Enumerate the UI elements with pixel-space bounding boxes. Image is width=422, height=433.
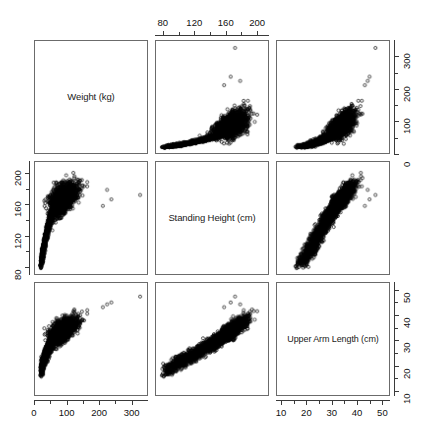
axis-tick — [163, 31, 164, 36]
panel-height-vs-weight — [155, 40, 269, 154]
axis-tick — [25, 173, 30, 174]
axis-tick — [332, 400, 333, 405]
axis-tick — [179, 32, 180, 36]
axis-tick — [394, 340, 399, 341]
scatter-points-height-vs-arm — [156, 283, 268, 395]
axis-tick — [394, 138, 398, 139]
axis-tick-label-arm-right: 10 — [401, 378, 412, 404]
axis-tick-label-weight-bottom: 300 — [119, 407, 145, 418]
axis-tick — [394, 302, 398, 303]
scatter-points-arm-vs-height — [277, 162, 389, 274]
panel-weight-diagonal: Weight (kg) — [34, 40, 148, 154]
axis-tick — [210, 32, 211, 36]
axis-tick-label-arm-right: 30 — [401, 327, 412, 353]
axis-tick-label-weight-right: 300 — [401, 43, 412, 69]
axis-tick — [50, 400, 51, 404]
panel-height-vs-arm — [155, 282, 269, 396]
axis-tick — [34, 400, 35, 405]
axis-tick-label-height-top: 160 — [215, 17, 237, 28]
axis-tick — [357, 400, 358, 405]
axis-tick-label-arm-bottom: 40 — [346, 407, 368, 418]
axis-tick — [294, 400, 295, 404]
diagonal-label-weight: Weight (kg) — [35, 41, 147, 153]
axis-tick — [394, 290, 399, 291]
axis-tick-label-height-left: 200 — [12, 160, 23, 186]
scatter-points-height-vs-weight — [156, 41, 268, 153]
axis-tick — [25, 236, 30, 237]
axis-tick — [394, 366, 399, 367]
axis-tick — [115, 400, 116, 404]
axis-tick-label-weight-bottom: 0 — [21, 407, 47, 418]
axis-tick — [370, 400, 371, 404]
axis-tick — [194, 31, 195, 36]
axis-tick — [394, 121, 399, 122]
axis-tick — [394, 315, 399, 316]
axis-tick-label-height-top: 80 — [152, 17, 174, 28]
axis-tick — [394, 73, 398, 74]
axis-tick-label-arm-right: 20 — [401, 353, 412, 379]
axis-tick — [29, 161, 30, 275]
axis-tick-label-weight-bottom: 100 — [54, 407, 80, 418]
axis-tick-label-weight-right: 0 — [401, 141, 412, 167]
axis-tick-label-height-left: 160 — [12, 191, 23, 217]
axis-tick — [26, 220, 30, 221]
axis-tick — [306, 400, 307, 405]
axis-tick — [25, 204, 30, 205]
axis-tick-label-height-left: 80 — [12, 254, 23, 280]
axis-tick — [99, 400, 100, 405]
axis-tick-label-height-top: 120 — [183, 17, 205, 28]
scatterplot-matrix: Weight (kg) Standing Height (cm) Upper A… — [0, 0, 422, 433]
axis-tick-label-arm-right: 40 — [401, 302, 412, 328]
axis-tick — [344, 400, 345, 404]
scatter-points-arm-vs-weight — [277, 41, 389, 153]
axis-tick-label-weight-right: 100 — [401, 108, 412, 134]
axis-tick — [226, 31, 227, 36]
axis-tick-label-arm-right: 50 — [401, 277, 412, 303]
panel-height-diagonal: Standing Height (cm) — [155, 161, 269, 275]
axis-tick — [394, 353, 398, 354]
panel-arm-vs-weight — [276, 40, 390, 154]
axis-tick — [382, 400, 383, 405]
axis-tick-label-height-left: 120 — [12, 223, 23, 249]
axis-tick — [394, 154, 399, 155]
axis-tick — [67, 400, 68, 405]
axis-tick — [281, 400, 282, 405]
axis-tick-label-arm-bottom: 10 — [270, 407, 292, 418]
axis-tick-label-weight-right: 200 — [401, 76, 412, 102]
panel-arm-vs-height — [276, 161, 390, 275]
axis-tick — [26, 189, 30, 190]
axis-tick — [394, 105, 398, 106]
scatter-points-weight-vs-arm — [35, 283, 147, 395]
panel-weight-vs-arm — [34, 282, 148, 396]
axis-tick — [394, 89, 399, 90]
axis-tick — [319, 400, 320, 404]
axis-tick-label-height-top: 200 — [246, 17, 268, 28]
axis-tick — [25, 267, 30, 268]
panel-arm-diagonal: Upper Arm Length (cm) — [276, 282, 390, 396]
panel-weight-vs-height — [34, 161, 148, 275]
axis-tick — [394, 378, 398, 379]
axis-tick — [394, 56, 399, 57]
axis-tick-label-arm-bottom: 20 — [295, 407, 317, 418]
diagonal-label-height: Standing Height (cm) — [156, 162, 268, 274]
axis-tick — [132, 400, 133, 405]
diagonal-label-arm: Upper Arm Length (cm) — [277, 283, 389, 395]
axis-tick — [155, 35, 269, 36]
axis-tick — [83, 400, 84, 404]
axis-tick — [241, 32, 242, 36]
axis-tick — [394, 391, 399, 392]
scatter-points-weight-vs-height — [35, 162, 147, 274]
axis-tick — [257, 31, 258, 36]
axis-tick — [26, 251, 30, 252]
axis-tick-label-arm-bottom: 50 — [371, 407, 393, 418]
axis-tick-label-arm-bottom: 30 — [321, 407, 343, 418]
axis-tick-label-weight-bottom: 200 — [86, 407, 112, 418]
axis-tick — [394, 328, 398, 329]
